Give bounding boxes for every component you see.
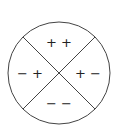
- quadrant-top-label: + +: [46, 35, 72, 50]
- quadrant-left-label: − +: [17, 66, 43, 81]
- sign-quadrant-diagram: + + − + + − − −: [0, 0, 118, 138]
- quadrant-right-label: + −: [75, 66, 101, 81]
- quadrant-bottom-label: − −: [46, 96, 72, 111]
